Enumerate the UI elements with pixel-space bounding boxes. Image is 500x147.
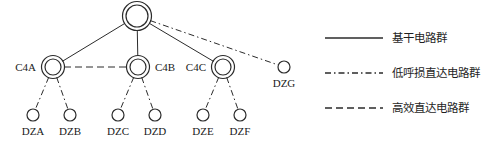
edge-C4B-DZD — [142, 77, 153, 109]
node-label-DZE: DZE — [192, 125, 214, 137]
node-DZF[interactable]: DZF — [230, 109, 251, 137]
node-label-DZG: DZG — [273, 77, 296, 89]
node-DZD[interactable]: DZD — [144, 109, 167, 137]
node-C4B[interactable]: C4B — [127, 56, 176, 79]
node-label-DZF: DZF — [230, 125, 251, 137]
edge-root-C4B — [137, 30, 138, 56]
node-DZG[interactable]: DZG — [273, 61, 296, 89]
legend-label-1: 低呼损直达电路群 — [392, 66, 481, 80]
edge-root-C4C — [149, 23, 213, 61]
node-label-DZA: DZA — [22, 125, 45, 137]
node-label-C4A: C4A — [15, 61, 36, 73]
node-label-C4C: C4C — [186, 61, 206, 73]
node-DZC[interactable]: DZC — [107, 109, 129, 137]
node-label-DZB: DZB — [59, 125, 81, 137]
legend-label-0: 基干电路群 — [392, 31, 448, 45]
edge-C4C-DZE — [205, 77, 218, 109]
edge-root-C4A — [62, 23, 125, 61]
network-topology-diagram: C4AC4BC4CDZGDZADZBDZCDZDDZEDZF 基干电路群低呼损直… — [0, 0, 500, 147]
legend-layer: 基干电路群低呼损直达电路群高效直达电路群 — [325, 31, 481, 115]
node-label-DZC: DZC — [107, 125, 129, 137]
edge-C4C-DZF — [227, 77, 238, 109]
edge-C4A-DZA — [35, 77, 48, 109]
edge-C4B-DZC — [120, 77, 133, 109]
node-root[interactable] — [123, 2, 152, 31]
node-DZB[interactable]: DZB — [59, 109, 81, 137]
node-C4A[interactable]: C4A — [15, 56, 64, 79]
node-DZA[interactable]: DZA — [22, 109, 45, 137]
node-label-DZD: DZD — [144, 125, 167, 137]
legend-label-2: 高效直达电路群 — [392, 101, 470, 115]
edge-root-DZG — [150, 21, 278, 65]
edge-C4A-DZB — [57, 77, 68, 109]
diagram-canvas: C4AC4BC4CDZGDZADZBDZCDZDDZEDZF 基干电路群低呼损直… — [0, 0, 500, 147]
node-label-C4B: C4B — [155, 61, 175, 73]
node-DZE[interactable]: DZE — [192, 109, 214, 137]
